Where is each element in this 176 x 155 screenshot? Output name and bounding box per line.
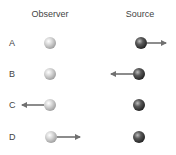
source-ball-b	[133, 68, 145, 80]
observer-ball-a	[44, 37, 56, 49]
observer-ball-b	[44, 68, 56, 80]
row-d	[45, 131, 145, 143]
row-b	[44, 68, 145, 80]
observer-ball-d	[45, 131, 57, 143]
row-a	[44, 37, 166, 49]
doppler-diagram	[0, 0, 176, 155]
source-ball-c	[133, 99, 145, 111]
row-c	[22, 99, 145, 111]
source-ball-a	[135, 37, 147, 49]
observer-ball-c	[44, 99, 56, 111]
source-ball-d	[133, 131, 145, 143]
